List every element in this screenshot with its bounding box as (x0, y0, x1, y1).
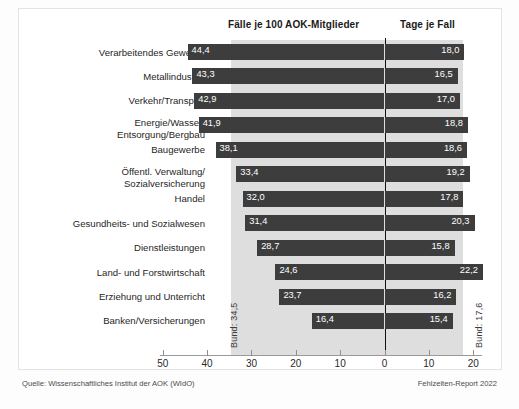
bar-faelle: 28,7 (257, 240, 384, 256)
report-note: Fehlzeiten-Report 2022 (418, 379, 497, 388)
bar-faelle: 42,9 (194, 93, 384, 109)
bar-value-tage: 15,8 (431, 241, 449, 251)
bar-faelle: 16,4 (312, 313, 385, 329)
bar-tage: 18,8 (385, 117, 468, 133)
axis-tick (340, 350, 341, 356)
table-row: Verkehr/Transport42,917,0 (0, 93, 519, 109)
axis-tick-label: 0 (370, 358, 400, 369)
axis-tick (251, 350, 252, 356)
bar-tage: 17,0 (385, 93, 460, 109)
axis-tick-label: 20 (281, 358, 311, 369)
table-row: Land- und Forstwirtschaft24,622,2 (0, 264, 519, 280)
axis-tick (473, 350, 474, 356)
category-label: Banken/Versicherungen (0, 315, 205, 327)
table-row: Gesundheits- und Sozialwesen31,420,3 (0, 215, 519, 231)
bar-faelle: 32,0 (243, 191, 385, 207)
table-row: Metallindustrie43,316,5 (0, 68, 519, 84)
bar-tage: 16,5 (385, 68, 458, 84)
axis-tick-label: 10 (414, 358, 444, 369)
bar-value-tage: 20,3 (451, 216, 469, 226)
bar-tage: 19,2 (385, 166, 470, 182)
category-label: Gesundheits- und Sozialwesen (0, 218, 205, 230)
axis-tick-label: 20 (458, 358, 488, 369)
axis-tick-label: 30 (236, 358, 266, 369)
table-row: Öffentl. Verwaltung/ Sozialversicherung3… (0, 166, 519, 182)
bar-value-tage: 19,2 (447, 167, 465, 177)
bar-value-tage: 18,6 (444, 143, 462, 153)
bar-faelle: 41,9 (199, 117, 385, 133)
bar-faelle: 24,6 (275, 264, 384, 280)
bar-value-tage: 15,4 (430, 314, 448, 324)
bar-tage: 15,8 (385, 240, 455, 256)
table-row: Handel32,017,8 (0, 191, 519, 207)
plot-area: Fälle je 100 AOK-Mitglieder Tage je Fall… (0, 0, 519, 409)
bar-value-faelle: 24,6 (279, 265, 297, 275)
category-label: Metallindustrie (0, 71, 205, 83)
category-label: Energie/Wasser/ Entsorgung/Bergbau (0, 117, 205, 140)
bar-value-faelle: 31,4 (249, 216, 267, 226)
bar-faelle: 33,4 (236, 166, 384, 182)
column-header-faelle: Fälle je 100 AOK-Mitglieder (228, 19, 359, 30)
bar-value-tage: 22,2 (460, 265, 478, 275)
bar-tage: 15,4 (385, 313, 453, 329)
bar-value-faelle: 32,0 (247, 192, 265, 202)
category-label: Dienstleistungen (0, 242, 205, 254)
bar-tage: 20,3 (385, 215, 475, 231)
axis-tick (163, 350, 164, 356)
axis-tick-label: 40 (192, 358, 222, 369)
bar-tage: 22,2 (385, 264, 483, 280)
bar-faelle: 43,3 (192, 68, 384, 84)
table-row: Energie/Wasser/ Entsorgung/Bergbau41,918… (0, 117, 519, 133)
table-row: Erziehung und Unterricht23,716,2 (0, 289, 519, 305)
table-row: Baugewerbe38,118,6 (0, 142, 519, 158)
bar-value-faelle: 33,4 (240, 167, 258, 177)
bar-tage: 16,2 (385, 289, 457, 305)
bar-faelle: 44,4 (188, 44, 385, 60)
axis-line (160, 355, 482, 356)
bar-value-tage: 18,0 (441, 45, 459, 55)
bar-value-faelle: 38,1 (220, 143, 238, 153)
bar-value-tage: 16,2 (433, 290, 451, 300)
table-row: Dienstleistungen28,715,8 (0, 240, 519, 256)
bar-tage: 18,6 (385, 142, 467, 158)
bar-value-tage: 18,8 (445, 118, 463, 128)
bar-value-faelle: 43,3 (196, 69, 214, 79)
source-note: Quelle: Wissenschaftliches Institut der … (22, 379, 195, 388)
bar-faelle: 38,1 (216, 142, 385, 158)
axis-tick (296, 350, 297, 356)
bar-value-faelle: 42,9 (198, 94, 216, 104)
category-label: Verarbeitendes Gewerbe (0, 47, 205, 59)
bar-faelle: 31,4 (245, 215, 384, 231)
bar-tage: 17,8 (385, 191, 464, 207)
bar-value-faelle: 28,7 (261, 241, 279, 251)
bar-value-faelle: 41,9 (203, 118, 221, 128)
bar-value-tage: 16,5 (435, 69, 453, 79)
axis-tick (429, 350, 430, 356)
axis-tick-label: 50 (148, 358, 178, 369)
category-label: Öffentl. Verwaltung/ Sozialversicherung (0, 166, 205, 189)
category-label: Baugewerbe (0, 144, 205, 156)
bar-value-tage: 17,8 (440, 192, 458, 202)
bar-value-faelle: 16,4 (316, 314, 334, 324)
table-row: Verarbeitendes Gewerbe44,418,0 (0, 44, 519, 60)
bar-faelle: 23,7 (279, 289, 384, 305)
bar-tage: 18,0 (385, 44, 465, 60)
axis-tick (207, 350, 208, 356)
column-header-tage: Tage je Fall (400, 19, 455, 30)
category-label: Erziehung und Unterricht (0, 291, 205, 303)
axis-tick-label: 10 (325, 358, 355, 369)
category-label: Land- und Forstwirtschaft (0, 267, 205, 279)
bar-value-faelle: 23,7 (283, 290, 301, 300)
category-label: Verkehr/Transport (0, 95, 205, 107)
chart-figure: Fälle je 100 AOK-Mitglieder Tage je Fall… (0, 0, 519, 409)
bar-value-tage: 17,0 (437, 94, 455, 104)
table-row: Banken/Versicherungen16,415,4 (0, 313, 519, 329)
category-label: Handel (0, 193, 205, 205)
bar-value-faelle: 44,4 (192, 45, 210, 55)
axis-tick (385, 350, 386, 356)
